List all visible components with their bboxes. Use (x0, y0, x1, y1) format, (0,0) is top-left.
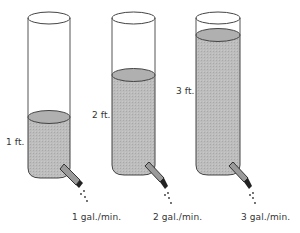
water-surface-1 (28, 111, 70, 124)
water-body-2 (112, 75, 155, 175)
flow-label-2: 2 gal./min. (153, 212, 202, 222)
cylinder-top-1 (28, 12, 70, 24)
spout-1 (60, 164, 88, 202)
height-label-2: 2 ft. (92, 110, 111, 120)
flow-label-1: 1 gal./min. (72, 212, 121, 222)
cylinders-diagram (0, 0, 300, 233)
flow-label-3: 3 gal./min. (241, 212, 290, 222)
cylinder-3 (196, 12, 256, 204)
water-surface-3 (196, 29, 240, 42)
cylinder-2 (112, 12, 172, 204)
cylinder-top-2 (112, 12, 155, 24)
water-surface-2 (112, 69, 155, 82)
height-label-1: 1 ft. (6, 137, 25, 147)
cylinder-top-3 (196, 12, 240, 24)
spout-3 (229, 162, 256, 204)
cylinder-1 (28, 12, 88, 202)
water-body-3 (196, 35, 240, 175)
height-label-3: 3 ft. (176, 86, 195, 96)
spout-2 (145, 162, 172, 204)
